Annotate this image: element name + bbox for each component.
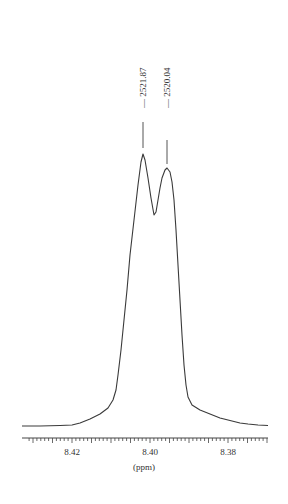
nmr-spectrum-chart: — 2521.87 — 2520.04 8.42 8.40 8.38 (ppm): [0, 0, 288, 504]
x-axis-title: (ppm): [133, 462, 155, 472]
x-tick-label-8-40: 8.40: [142, 447, 158, 457]
x-tick-label-8-38: 8.38: [220, 447, 236, 457]
x-tick-label-8-42: 8.42: [64, 447, 80, 457]
peak-label-1: — 2521.87: [138, 67, 148, 109]
x-axis-ticks: [29, 438, 267, 443]
spectrum-line: [22, 154, 268, 426]
peak-label-2: — 2520.04: [162, 67, 172, 109]
